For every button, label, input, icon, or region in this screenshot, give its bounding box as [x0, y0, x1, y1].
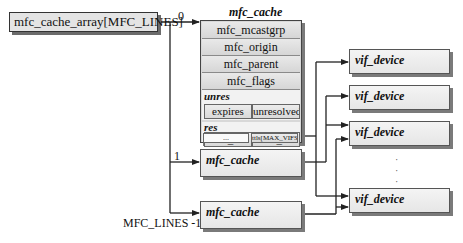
mfc-cache-array-box: mfc_cache_array[MFC_LINES] — [9, 12, 158, 32]
field-mfc-parent: mfc_parent — [202, 56, 300, 73]
field-mfc-flags: mfc_flags — [202, 73, 300, 90]
vif-device-2-title: vif_device — [355, 89, 404, 104]
cell-unresolved: unresolved — [252, 104, 300, 119]
mfc-cache-entry-last: mfc_cache — [200, 201, 302, 229]
field-mfc-mcastgrp: mfc_mcastgrp — [202, 22, 300, 39]
vif-device-4: vif_device — [349, 188, 450, 213]
unres-label: unres — [202, 90, 300, 103]
unres-section: unres expires unresolved — [202, 90, 300, 120]
field-mfc-origin: mfc_origin — [202, 39, 300, 56]
vif-device-3-title: vif_device — [355, 125, 404, 140]
mfc-cache-main-title: mfc_cache — [229, 6, 282, 18]
index-label-1: 1 — [174, 150, 180, 162]
mfc-cache-entry-1-title: mfc_cache — [206, 153, 259, 168]
cell-ttls: ttls[MAX_VIFS] — [251, 133, 298, 143]
mfc-cache-array-label: mfc_cache_array[MFC_LINES] — [14, 14, 183, 29]
vif-device-2: vif_device — [349, 85, 450, 110]
mfc-cache-entry-last-title: mfc_cache — [206, 205, 259, 220]
vif-device-4-title: vif_device — [355, 192, 404, 207]
index-label-last: MFC_LINES -1 — [123, 217, 201, 229]
index-label-0: 0 — [178, 10, 184, 22]
cell-ellipsis: ... — [203, 133, 249, 143]
mfc-cache-main-box: mfc_mcastgrp mfc_origin mfc_parent mfc_f… — [200, 20, 302, 143]
cell-expires: expires — [204, 104, 252, 119]
mfc-cache-entry-1: mfc_cache — [200, 149, 302, 177]
vif-device-1: vif_device — [349, 49, 450, 74]
vertical-ellipsis: · · · — [395, 154, 398, 187]
vif-device-3: vif_device — [349, 121, 450, 146]
vif-device-1-title: vif_device — [355, 53, 404, 68]
